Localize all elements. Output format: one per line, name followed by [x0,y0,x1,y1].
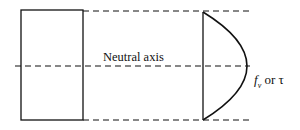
neutral-axis-label: Neutral axis [103,50,164,65]
cross-section-rectangle [21,10,83,120]
shear-stress-diagram [0,0,300,130]
stress-label: fv or τ [254,72,284,90]
stress-or-tau: or τ [261,72,284,87]
